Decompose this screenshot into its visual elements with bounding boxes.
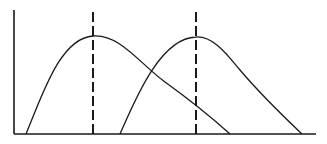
distribution-curve-2 (120, 37, 302, 134)
distribution-curve-1 (26, 36, 230, 134)
chart-canvas (0, 0, 327, 144)
